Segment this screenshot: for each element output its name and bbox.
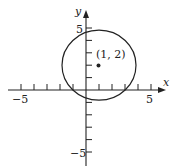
y-tick-label-5: 5 (76, 23, 83, 36)
x-axis-label: x (163, 76, 170, 89)
center-label: (1, 2) (96, 48, 126, 61)
coordinate-plane: (1, 2) y x −5 5 5 −5 (0, 0, 171, 166)
y-axis-label: y (74, 5, 82, 18)
center-point (97, 64, 101, 68)
y-axis-arrow-icon (83, 10, 89, 18)
x-tick-label-neg5: −5 (12, 93, 28, 106)
y-tick-label-neg5: −5 (70, 147, 86, 160)
x-tick-label-5: 5 (146, 93, 153, 106)
